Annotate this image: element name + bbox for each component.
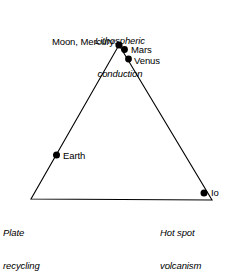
point-label-venus: Venus — [134, 55, 194, 66]
point-label-earth: Earth — [63, 150, 123, 161]
point-label-io: Io — [211, 187, 241, 198]
vertex-label-plate-recycling: Plate recycling — [3, 205, 77, 275]
vertex-label-line1: Hot spot — [160, 227, 240, 238]
vertex-label-hot-spot-volcanism: Hot spot volcanism — [160, 205, 240, 275]
data-point-earth — [53, 152, 60, 159]
point-label-mars: Mars — [131, 44, 191, 55]
vertex-label-line2: volcanism — [160, 260, 240, 271]
vertex-label-line1: Plate — [3, 227, 77, 238]
data-point-io — [201, 190, 208, 197]
vertex-label-line2: conduction — [62, 68, 178, 79]
point-label-moon-mercury: Moon, Mercury — [28, 36, 114, 47]
vertex-label-line2: recycling — [3, 260, 77, 271]
